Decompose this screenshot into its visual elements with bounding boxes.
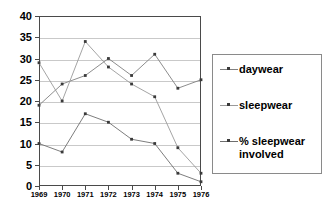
- data-point-marker: [176, 172, 179, 175]
- data-point-marker: [176, 146, 179, 149]
- data-point-marker: [38, 61, 41, 64]
- data-point-marker: [200, 78, 203, 81]
- data-series-layer: [39, 16, 201, 186]
- data-point-marker: [176, 87, 179, 90]
- legend-marker-icon: [219, 100, 239, 111]
- x-tick-label: 1975: [170, 191, 187, 199]
- y-tick-label: 30: [20, 53, 32, 64]
- legend-dot: [227, 139, 230, 142]
- y-tick-label: 20: [20, 96, 32, 107]
- y-tick-label: 40: [20, 11, 32, 22]
- y-tick-label: 5: [26, 159, 32, 170]
- x-tick-label: 1970: [54, 191, 71, 199]
- chart-legend: daywearsleepwear% sleepwear involved: [212, 54, 322, 174]
- x-tick-label: 1971: [77, 191, 94, 199]
- data-point-marker: [130, 83, 133, 86]
- data-point-marker: [61, 100, 64, 103]
- x-tick-label: 1973: [123, 191, 140, 199]
- data-point-marker: [61, 83, 64, 86]
- legend-item-1[interactable]: daywear: [219, 63, 283, 76]
- data-point-marker: [130, 74, 133, 77]
- data-point-marker: [61, 151, 64, 154]
- y-tick-label: 35: [20, 32, 32, 43]
- x-tick-label: 1976: [193, 191, 210, 199]
- legend-label: % sleepwear involved: [239, 135, 305, 161]
- legend-marker-icon: [219, 64, 239, 75]
- data-point-marker: [38, 142, 41, 145]
- legend-dot: [227, 67, 230, 70]
- x-axis: 19691970197119721973197419751976: [0, 188, 330, 210]
- data-point-marker: [84, 74, 87, 77]
- x-tick-label: 1969: [31, 191, 48, 199]
- line-chart: 0510152025303540 19691970197119721973197…: [0, 0, 330, 216]
- series-line: [39, 42, 201, 174]
- data-point-marker: [200, 172, 203, 175]
- legend-dot: [227, 103, 230, 106]
- data-point-marker: [107, 66, 110, 69]
- y-tick-label: 25: [20, 74, 32, 85]
- x-tick-label: 1972: [100, 191, 117, 199]
- data-point-marker: [107, 57, 110, 60]
- legend-label: daywear: [239, 63, 283, 76]
- series-1: [38, 53, 203, 107]
- data-point-marker: [200, 180, 203, 183]
- y-tick-label: 10: [20, 138, 32, 149]
- legend-label: sleepwear: [239, 99, 292, 112]
- data-point-marker: [153, 142, 156, 145]
- y-axis: 0510152025303540: [0, 0, 36, 216]
- data-point-marker: [84, 40, 87, 43]
- legend-item-3[interactable]: % sleepwear involved: [219, 135, 305, 161]
- series-2: [38, 40, 203, 175]
- data-point-marker: [130, 138, 133, 141]
- legend-item-2[interactable]: sleepwear: [219, 99, 292, 112]
- y-tick-label: 15: [20, 117, 32, 128]
- legend-marker-icon: [219, 136, 239, 147]
- data-point-marker: [38, 104, 41, 107]
- x-tick-label: 1974: [146, 191, 163, 199]
- data-point-marker: [153, 95, 156, 98]
- data-point-marker: [84, 112, 87, 115]
- data-point-marker: [153, 53, 156, 56]
- data-point-marker: [107, 121, 110, 124]
